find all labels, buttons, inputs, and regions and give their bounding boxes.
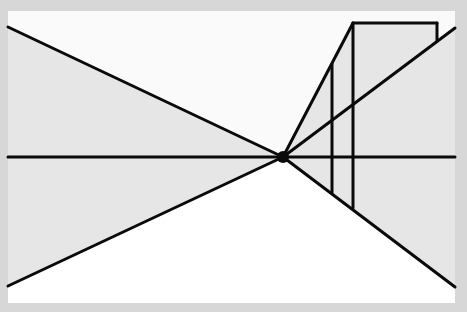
vanishing-point (277, 151, 289, 163)
perspective-diagram (0, 0, 467, 312)
diagram-frame: One-point perspective drawing (0, 0, 467, 312)
